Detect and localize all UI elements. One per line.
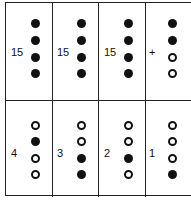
filled-bead-icon [77, 69, 86, 78]
filled-bead-icon [31, 36, 40, 45]
filled-bead-icon [124, 69, 133, 78]
open-bead-icon [168, 53, 177, 62]
abacus-grid: 151515+4321 [5, 2, 191, 196]
open-bead-icon [168, 121, 177, 130]
filled-bead-icon [77, 154, 86, 163]
filled-bead-icon [168, 170, 177, 179]
cell-label: 1 [149, 147, 155, 159]
cell-label: 15 [57, 46, 69, 58]
filled-bead-icon [124, 154, 133, 163]
filled-bead-icon [124, 19, 133, 28]
filled-bead-icon [31, 19, 40, 28]
open-bead-icon [168, 137, 177, 146]
open-bead-icon [124, 137, 133, 146]
open-bead-icon [124, 121, 133, 130]
filled-bead-icon [77, 53, 86, 62]
cell-label: 15 [11, 46, 23, 58]
open-bead-icon [77, 121, 86, 130]
open-bead-icon [124, 170, 133, 179]
open-bead-icon [31, 121, 40, 130]
filled-bead-icon [31, 137, 40, 146]
filled-bead-icon [168, 19, 177, 28]
cell-label: 15 [104, 46, 116, 58]
open-bead-icon [168, 69, 177, 78]
cell-label: 2 [104, 147, 110, 159]
cell-label: 3 [57, 147, 63, 159]
filled-bead-icon [77, 36, 86, 45]
cell-label: 4 [11, 147, 17, 159]
filled-bead-icon [31, 69, 40, 78]
filled-bead-icon [124, 53, 133, 62]
cell-label: + [149, 46, 155, 58]
open-bead-icon [31, 154, 40, 163]
open-bead-icon [31, 170, 40, 179]
open-bead-icon [77, 137, 86, 146]
filled-bead-icon [77, 19, 86, 28]
filled-bead-icon [77, 170, 86, 179]
filled-bead-icon [31, 53, 40, 62]
open-bead-icon [168, 154, 177, 163]
filled-bead-icon [168, 36, 177, 45]
filled-bead-icon [124, 36, 133, 45]
